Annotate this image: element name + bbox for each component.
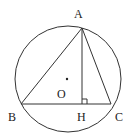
center-point-o xyxy=(66,78,68,80)
label-o: O xyxy=(57,87,66,101)
label-a: A xyxy=(74,7,83,21)
segment-ab xyxy=(21,28,82,104)
label-c: C xyxy=(115,110,123,124)
right-angle-marker xyxy=(82,99,87,104)
segment-ac xyxy=(82,28,111,104)
label-h: H xyxy=(77,110,86,124)
label-b: B xyxy=(8,110,16,124)
geometry-diagram: A B C H O xyxy=(0,0,134,139)
